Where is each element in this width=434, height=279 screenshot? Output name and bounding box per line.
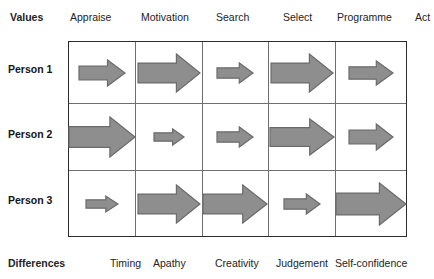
row-label-column: Person 1Person 2Person 3 [0, 41, 68, 237]
arrow-matrix [68, 41, 407, 237]
right-arrow-icon [349, 124, 393, 150]
matrix-cell-1-4 [269, 42, 336, 104]
right-arrow-icon [217, 127, 253, 147]
header-label-item-select: Select [283, 8, 312, 26]
footer-label-row: DifferencesTimingApathyCreativityJudgeme… [0, 254, 434, 272]
right-arrow-icon [138, 185, 200, 223]
right-arrow-icon [217, 63, 253, 83]
matrix-cell-3-3 [203, 171, 270, 236]
right-arrow-icon [203, 185, 267, 223]
matrix-cell-2-1 [69, 104, 136, 171]
right-arrow-icon [154, 129, 184, 145]
right-arrow-icon [270, 119, 334, 155]
right-arrow-icon [79, 60, 125, 86]
footer-label-title: Differences [8, 254, 65, 272]
right-arrow-icon [138, 54, 200, 92]
header-label-title: Values [10, 8, 43, 26]
footer-label-item-creativity: Creativity [215, 254, 259, 272]
header-label-item-programme: Programme [337, 8, 392, 26]
row-label-person-3: Person 3 [8, 194, 52, 206]
header-label-item-motivation: Motivation [141, 8, 189, 26]
matrix-cell-3-4 [269, 171, 336, 236]
matrix-cell-1-2 [136, 42, 203, 104]
footer-label-item-judgement: Judgement [276, 254, 328, 272]
matrix-cell-3-1 [69, 171, 136, 236]
row-label-person-2: Person 2 [8, 128, 52, 140]
footer-label-item-timing: Timing [110, 254, 141, 272]
header-label-item-act: Act [415, 8, 430, 26]
right-arrow-icon [271, 54, 333, 92]
matrix-cell-3-2 [136, 171, 203, 236]
matrix-cell-3-5 [336, 171, 406, 236]
matrix-cell-2-2 [136, 104, 203, 171]
matrix-cell-2-4 [269, 104, 336, 171]
matrix-cell-2-3 [203, 104, 270, 171]
matrix-cell-1-3 [203, 42, 270, 104]
matrix-grid [69, 42, 406, 236]
right-arrow-icon [69, 117, 135, 157]
right-arrow-icon [284, 194, 320, 214]
matrix-cell-1-1 [69, 42, 136, 104]
row-label-person-1: Person 1 [8, 63, 52, 75]
matrix-cell-2-5 [336, 104, 406, 171]
matrix-cell-1-5 [336, 42, 406, 104]
right-arrow-icon [349, 61, 393, 85]
header-label-row: ValuesAppraiseMotivationSearchSelectProg… [0, 8, 434, 26]
right-arrow-icon [336, 183, 406, 225]
header-label-item-appraise: Appraise [70, 8, 111, 26]
header-label-item-search: Search [216, 8, 249, 26]
footer-label-item-apathy: Apathy [153, 254, 186, 272]
footer-label-item-self-confidence: Self-confidence [335, 254, 407, 272]
right-arrow-icon [86, 196, 118, 212]
